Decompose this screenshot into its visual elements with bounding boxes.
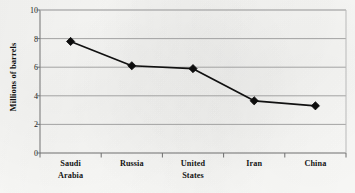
x-axis-category-label-line: United <box>162 158 223 170</box>
x-axis-category-label-line: Saudi <box>40 158 101 170</box>
x-axis-category-label-line: States <box>162 170 223 182</box>
data-point-marker <box>189 65 197 73</box>
x-axis-category-label-line: Russia <box>101 158 162 170</box>
data-point-marker <box>311 102 319 110</box>
x-axis-category-label: Iran <box>224 158 285 170</box>
x-axis-category-label: SaudiArabia <box>40 158 101 181</box>
x-axis-category-label: China <box>285 158 346 170</box>
x-axis-ticks <box>40 153 346 158</box>
data-point-markers <box>67 37 320 110</box>
x-axis-category-label-line: Iran <box>224 158 285 170</box>
plot-frame <box>40 10 346 153</box>
data-point-marker <box>128 62 136 70</box>
x-axis-category-label: Russia <box>101 158 162 170</box>
x-axis-category-label-line: China <box>285 158 346 170</box>
x-axis-category-label-line: Arabia <box>40 170 101 182</box>
data-point-marker <box>250 97 258 105</box>
chart-figure: Millions of barrels 10 8 6 4 2 0 SaudiAr… <box>0 0 355 193</box>
x-axis-labels: SaudiArabiaRussiaUnitedStatesIranChina <box>0 158 355 192</box>
x-axis-category-label: UnitedStates <box>162 158 223 181</box>
